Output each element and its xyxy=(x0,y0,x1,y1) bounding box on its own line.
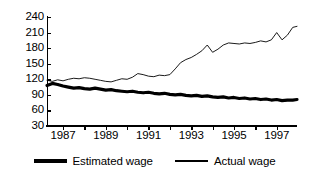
legend-label-estimated-wage: Estimated wage xyxy=(73,155,153,167)
legend-item-actual-wage: Actual wage xyxy=(175,155,276,167)
legend-swatch-thick-line xyxy=(34,159,67,162)
y-axis-tick-mark xyxy=(47,95,51,96)
legend-item-estimated-wage: Estimated wage xyxy=(34,155,153,167)
y-axis-tick-mark xyxy=(47,33,51,34)
x-axis-tick-mark xyxy=(84,126,85,130)
y-axis-tick-mark xyxy=(47,126,51,127)
x-axis-tick-mark xyxy=(255,126,256,130)
x-axis-tick-mark xyxy=(106,126,107,130)
x-axis-tick-mark xyxy=(213,126,214,130)
series-line-estimated-wage xyxy=(47,83,297,100)
legend-label-actual-wage: Actual wage xyxy=(214,155,276,167)
x-axis-tick-mark xyxy=(191,126,192,130)
legend-swatch-thin-line xyxy=(175,160,208,161)
y-axis-tick-mark xyxy=(47,17,51,18)
y-axis-tick-mark xyxy=(47,48,51,49)
y-axis-tick-mark xyxy=(47,64,51,65)
x-axis-tick-mark xyxy=(63,126,64,130)
x-axis-tick-mark xyxy=(170,126,171,130)
y-axis-tick-mark xyxy=(47,110,51,111)
x-axis-tick-mark xyxy=(234,126,235,130)
wage-line-chart: 240210180150120906030 198719891991199319… xyxy=(0,0,309,177)
chart-legend: Estimated wage Actual wage xyxy=(0,150,309,172)
x-axis-tick-mark xyxy=(127,126,128,130)
x-axis-tick-mark xyxy=(277,126,278,130)
y-axis-tick-mark xyxy=(47,79,51,80)
x-axis-tick-mark xyxy=(148,126,149,130)
series-line-actual-wage xyxy=(47,26,297,82)
